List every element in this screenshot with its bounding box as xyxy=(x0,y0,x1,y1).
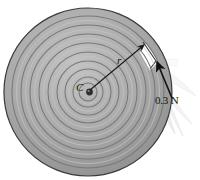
force-magnitude-label: 0.3 N xyxy=(155,95,178,106)
physics-figure: C r 0.3 N xyxy=(0,0,200,180)
spiral-coil-disk xyxy=(4,8,172,176)
figure-canvas xyxy=(0,0,200,180)
center-label: C xyxy=(76,82,83,93)
hub-dot xyxy=(86,89,93,96)
radius-label: r xyxy=(117,55,121,66)
